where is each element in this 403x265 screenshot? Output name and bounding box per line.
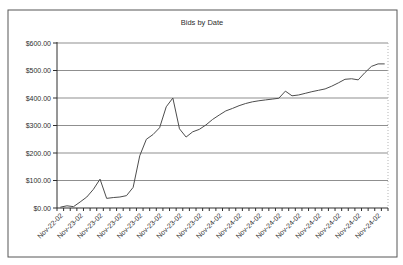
y-tick-label: $600.00	[26, 40, 51, 47]
y-tick-label: $0.00	[33, 205, 51, 212]
y-tick-label: $300.00	[26, 122, 51, 129]
y-tick-label: $100.00	[26, 177, 51, 184]
y-tick-label: $500.00	[26, 67, 51, 74]
chart-title: Bids by Date	[181, 18, 224, 27]
bids-by-date-chart: Bids by Date $600.00$500.00$400.00$300.0…	[0, 0, 403, 265]
y-tick-label: $200.00	[26, 150, 51, 157]
y-tick-label: $400.00	[26, 95, 51, 102]
